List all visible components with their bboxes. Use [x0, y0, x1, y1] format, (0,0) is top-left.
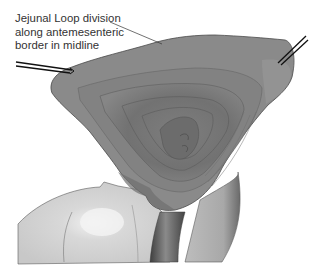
opened-jejunal-loop — [51, 35, 294, 210]
annotation-line-2: along antemesenteric — [15, 26, 124, 40]
left-stay-suture — [16, 62, 74, 74]
jejunal-loop-illustration: Jejunal Loop division along antemesenter… — [0, 0, 318, 277]
annotation-line-3: border in midline — [15, 39, 124, 53]
annotation-line-1: Jejunal Loop division — [15, 12, 124, 26]
annotation-label: Jejunal Loop division along antemesenter… — [15, 12, 124, 53]
